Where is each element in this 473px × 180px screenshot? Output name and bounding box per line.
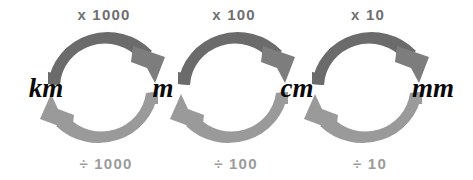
conversion-loop-m-cm — [170, 32, 295, 143]
divide-arc-mm-to-cm — [304, 92, 422, 143]
multiply-label-m-to-cm: x 100 — [212, 7, 256, 22]
unit-label-mm: mm — [412, 75, 454, 102]
multiply-arc-tail-m-to-cm — [178, 72, 190, 85]
unit-label-km: km — [29, 75, 64, 102]
unit-label-cm: cm — [281, 75, 314, 102]
conversion-arrows-canvas — [0, 0, 473, 180]
conversion-loop-cm-mm — [304, 32, 429, 143]
metric-conversion-diagram: km m cm mm x 1000 x 100 x 10 ÷ 1000 ÷ 10… — [0, 0, 473, 180]
divide-label-m-to-km: ÷ 1000 — [80, 156, 133, 171]
multiply-arc-tail-cm-to-mm — [312, 72, 324, 85]
multiply-label-cm-to-mm: x 10 — [351, 7, 385, 22]
divide-label-cm-to-m: ÷ 100 — [214, 156, 257, 171]
divide-arc-cm-to-m — [170, 92, 288, 143]
divide-label-mm-to-cm: ÷ 10 — [353, 156, 387, 171]
multiply-arc-km-to-m — [48, 32, 165, 85]
multiply-label-km-to-m: x 1000 — [77, 7, 130, 22]
unit-label-m: m — [152, 75, 173, 102]
multiply-arc-m-to-cm — [178, 32, 295, 85]
